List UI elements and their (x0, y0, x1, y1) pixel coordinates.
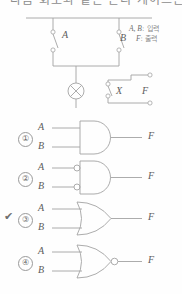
option-2-number[interactable]: ② (18, 172, 33, 187)
option-4-input-b-label: B (38, 264, 44, 275)
gate-4-or-body (77, 245, 111, 278)
gate-4-output-bubble (111, 258, 118, 265)
gate-1-and-body (80, 121, 111, 154)
gate-2-and-body (80, 161, 111, 194)
legend-inputs: A, B: 입력 (129, 23, 159, 33)
option-3-gate-or (50, 200, 150, 240)
option-2-input-a-label: A (38, 161, 44, 172)
gate-2-input-bubble-b (74, 184, 80, 190)
switch-a-blade (53, 34, 58, 48)
terminal-a-top (51, 30, 55, 34)
option-2-input-b-label: B (38, 180, 44, 191)
gate-3-or-body (77, 202, 111, 235)
option-2-output-label: F (148, 170, 154, 181)
terminal-f-bottom (148, 101, 152, 105)
option-1-input-b-label: B (38, 140, 44, 151)
option-row-2[interactable]: ② A B F (0, 159, 182, 199)
question-heading: 다음 회로와 같은 논리 게이트는? (10, 0, 182, 7)
option-4-gate-nor (50, 243, 150, 283)
option-row-1[interactable]: ① A B F (0, 119, 182, 159)
terminal-b-bottom (117, 48, 121, 52)
option-3-checkmark: ✔ (4, 210, 13, 223)
option-4-input-a-label: A (38, 245, 44, 256)
relay-x-label: X (116, 85, 122, 96)
terminal-x-bottom (106, 94, 110, 98)
terminal-x-top (106, 82, 110, 86)
option-2-gate-and-inverted-inputs (50, 159, 150, 199)
option-1-number[interactable]: ① (18, 132, 33, 147)
switch-a-label: A (62, 29, 68, 40)
terminal-a-bottom (51, 48, 55, 52)
option-3-output-label: F (148, 211, 154, 222)
question-page: 다음 회로와 같은 논리 게이트는? (0, 0, 182, 294)
option-4-number[interactable]: ④ (18, 256, 33, 271)
legend-output: F: 출력 (136, 33, 157, 43)
circuit-output-f-label: F (142, 85, 148, 96)
option-3-input-a-label: A (38, 202, 44, 213)
option-row-4[interactable]: ④ A B F (0, 243, 182, 283)
legend-inputs-desc: : 입력 (142, 25, 159, 33)
gate-2-input-bubble-a (74, 165, 80, 171)
terminal-f-top (148, 73, 152, 77)
option-3-input-b-label: B (38, 221, 44, 232)
option-1-output-label: F (148, 130, 154, 141)
option-1-gate-and (50, 119, 150, 159)
option-3-number[interactable]: ③ (18, 213, 33, 228)
switch-b-label: B (120, 32, 126, 43)
legend-inputs-vars: A, B (129, 24, 142, 33)
option-1-input-a-label: A (38, 121, 44, 132)
option-4-output-label: F (148, 254, 154, 265)
legend-output-desc: : 출력 (141, 35, 158, 43)
option-row-3[interactable]: ✔ ③ A B F (0, 200, 182, 240)
